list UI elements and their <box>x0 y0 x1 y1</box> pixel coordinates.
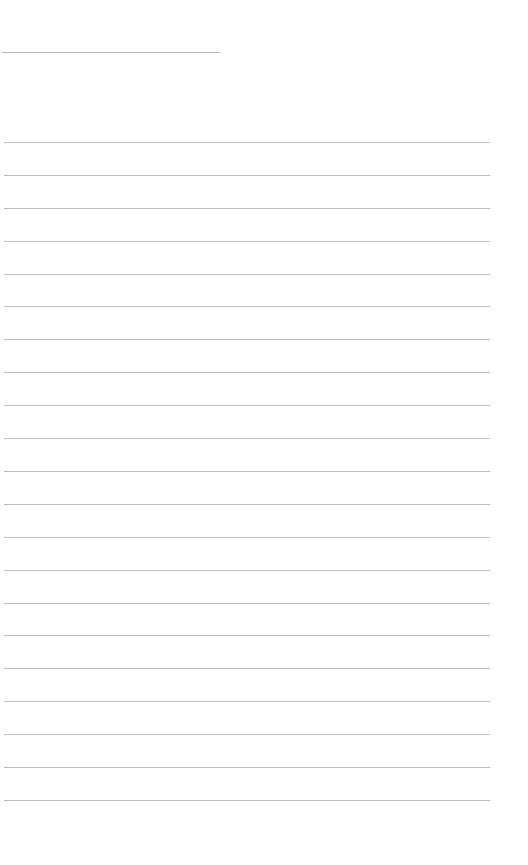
ruled-line-17 <box>4 668 490 669</box>
line-text-15[interactable] <box>6 585 486 603</box>
line-text-2[interactable] <box>6 157 486 175</box>
line-text-20[interactable] <box>6 749 486 767</box>
line-text-3[interactable] <box>6 190 486 208</box>
line-text-11[interactable] <box>6 453 486 471</box>
ruled-line-21 <box>4 800 490 801</box>
ruled-line-3 <box>4 208 490 209</box>
lined-notebook-page <box>0 0 528 865</box>
line-text-21[interactable] <box>6 782 486 800</box>
line-text-6[interactable] <box>6 288 486 306</box>
ruled-line-6 <box>4 306 490 307</box>
line-text-8[interactable] <box>6 354 486 372</box>
line-text-13[interactable] <box>6 519 486 537</box>
ruled-line-11 <box>4 471 490 472</box>
ruled-line-12 <box>4 504 490 505</box>
line-text-4[interactable] <box>6 223 486 241</box>
line-text-16[interactable] <box>6 617 486 635</box>
ruled-line-8 <box>4 372 490 373</box>
line-text-1[interactable] <box>6 124 486 142</box>
line-text-10[interactable] <box>6 420 486 438</box>
line-text-7[interactable] <box>6 321 486 339</box>
ruled-line-2 <box>4 175 490 176</box>
ruled-line-13 <box>4 537 490 538</box>
ruled-line-19 <box>4 734 490 735</box>
line-text-18[interactable] <box>6 683 486 701</box>
ruled-line-4 <box>4 241 490 242</box>
ruled-line-16 <box>4 635 490 636</box>
ruled-lines-area <box>4 0 490 865</box>
line-text-19[interactable] <box>6 716 486 734</box>
ruled-line-15 <box>4 603 490 604</box>
ruled-line-10 <box>4 438 490 439</box>
ruled-line-7 <box>4 339 490 340</box>
ruled-line-1 <box>4 142 490 143</box>
ruled-line-9 <box>4 405 490 406</box>
line-text-12[interactable] <box>6 486 486 504</box>
ruled-line-18 <box>4 701 490 702</box>
ruled-line-14 <box>4 570 490 571</box>
line-text-5[interactable] <box>6 256 486 274</box>
line-text-17[interactable] <box>6 650 486 668</box>
line-text-14[interactable] <box>6 552 486 570</box>
ruled-line-5 <box>4 274 490 275</box>
line-text-9[interactable] <box>6 387 486 405</box>
ruled-line-20 <box>4 767 490 768</box>
